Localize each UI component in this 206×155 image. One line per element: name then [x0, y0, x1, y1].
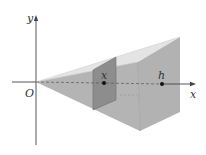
- pyramid-diagram: y O x x h: [0, 0, 206, 155]
- x-axis-label: x: [190, 88, 197, 101]
- cross-section-x-label: x: [101, 69, 108, 82]
- y-axis-label: y: [26, 12, 34, 25]
- y-axis-arrow-icon: [34, 15, 38, 21]
- pyramid-side-face: [36, 62, 140, 131]
- origin-label: O: [25, 87, 34, 100]
- height-point: [160, 82, 164, 86]
- x-axis-arrow-icon: [190, 82, 196, 86]
- height-h-label: h: [158, 69, 165, 82]
